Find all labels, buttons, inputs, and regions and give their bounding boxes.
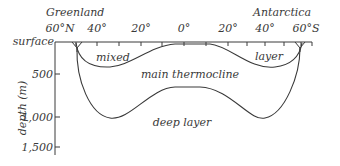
lat-label-20n: 20°: [130, 22, 151, 35]
lat-label-60n: 60°N: [45, 22, 74, 35]
lat-label-0: 0°: [178, 22, 191, 35]
depth-axis: [55, 42, 60, 155]
lat-label-60s: 60°S: [292, 22, 319, 35]
depth-tick-500: 500: [32, 68, 53, 81]
layer-label: layer: [255, 50, 284, 63]
greenland-label: Greenland: [46, 6, 104, 19]
depth-axis-label: depth (m): [16, 81, 29, 136]
lat-label-40s: 40°: [254, 22, 275, 35]
lat-label-40n: 40°: [86, 22, 107, 35]
ocean-layers-diagram: Greenland Antarctica 60°N 40° 20° 0° 20°…: [0, 0, 340, 166]
lat-label-20s: 20°: [217, 22, 238, 35]
depth-tick-1500: 1,500: [22, 141, 54, 154]
surface-label: surface: [13, 35, 55, 48]
antarctica-label: Antarctica: [252, 6, 311, 19]
main-thermocline-label: main thermocline: [141, 68, 240, 81]
mixed-label: mixed: [96, 51, 130, 64]
deep-layer-label: deep layer: [153, 116, 212, 129]
